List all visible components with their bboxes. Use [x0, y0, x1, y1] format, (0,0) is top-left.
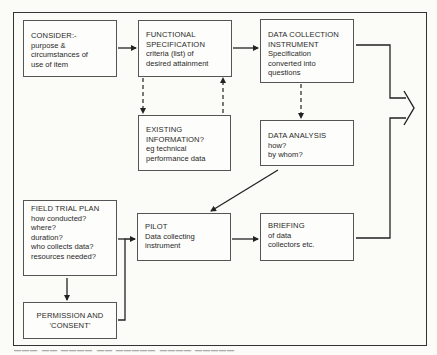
box-line: of data	[268, 231, 346, 241]
box-title: SPECIFICATION	[146, 40, 224, 50]
box-title: 'CONSENT'	[28, 321, 112, 331]
box-title: FUNCTIONAL	[146, 30, 224, 40]
box-line: collectors etc.	[268, 240, 346, 250]
box-permission-consent: PERMISSION AND 'CONSENT'	[23, 302, 117, 339]
box-line: Data collecting	[145, 232, 223, 242]
box-line: use of item	[31, 60, 109, 70]
box-briefing: BRIEFING of data collectors etc.	[260, 213, 354, 261]
box-line: duration?	[31, 233, 109, 243]
box-title: INFORMATION?	[146, 135, 223, 145]
box-title: PERMISSION AND	[28, 311, 112, 321]
box-line: performance data	[146, 154, 223, 164]
box-pilot: PILOT Data collecting instrument	[137, 213, 231, 261]
box-line: converted into	[268, 59, 346, 69]
box-title: PILOT	[145, 222, 223, 232]
box-line: criteria (list) of	[146, 49, 224, 59]
box-consider: CONSIDER:- purpose & circumstances of us…	[23, 20, 117, 77]
box-title: FIELD TRIAL PLAN	[31, 204, 109, 214]
box-line: how?	[268, 141, 346, 151]
box-title: INSTRUMENT	[268, 40, 346, 50]
box-line: instrument	[145, 241, 223, 251]
box-line: how conducted?	[31, 214, 109, 224]
box-line: where?	[31, 223, 109, 233]
box-line: by whom?	[268, 150, 346, 160]
box-line: circumstances of	[31, 50, 109, 60]
box-existing-information: EXISTING INFORMATION? eg technical perfo…	[138, 115, 231, 171]
box-line: eg technical	[146, 144, 223, 154]
box-field-trial-plan: FIELD TRIAL PLAN how conducted? where? d…	[23, 200, 117, 276]
box-title: EXISTING	[146, 125, 223, 135]
box-title: BRIEFING	[268, 221, 346, 231]
box-data-analysis: DATA ANALYSIS how? by whom?	[260, 120, 354, 166]
box-title: CONSIDER:-	[31, 31, 109, 41]
clipped-caption: ▔▔▔ ▔▔ ▔▔▔▔ ▔▔ ▔▔▔▔▔ ▔▔▔▔ ▔▔▔▔▔	[14, 350, 235, 355]
box-line: who collects data?	[31, 242, 109, 252]
box-functional-specification: FUNCTIONAL SPECIFICATION criteria (list)…	[138, 20, 232, 77]
box-line: desired attainment	[146, 59, 224, 69]
box-title: DATA COLLECTION	[268, 30, 346, 40]
box-line: questions	[268, 68, 346, 78]
box-title: DATA ANALYSIS	[268, 131, 346, 141]
box-data-collection-instrument: DATA COLLECTION INSTRUMENT Specification…	[260, 19, 354, 83]
box-line: resources needed?	[31, 252, 109, 262]
box-line: Specification	[268, 49, 346, 59]
box-line: purpose &	[31, 41, 109, 51]
